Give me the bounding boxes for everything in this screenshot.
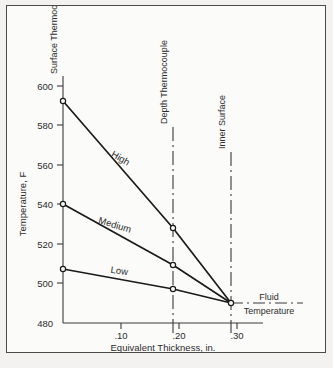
inner-surface-label: Inner Surface — [217, 95, 227, 149]
series-marker-convergence — [228, 300, 233, 305]
series-label-medium: Medium — [97, 214, 133, 234]
series-line-medium — [63, 204, 231, 303]
y-tick-label-600: 600 — [37, 81, 53, 92]
x-axis-ticks — [121, 323, 237, 329]
chart-canvas: 600 580 560 540 520 500 480 .10 .20 .30 … — [7, 6, 325, 352]
depth-thermocouple-label: Depth Thermocouple — [159, 40, 169, 124]
series-line-high — [63, 101, 231, 303]
series-marker-low-1 — [170, 286, 175, 291]
y-tick-label-560: 560 — [37, 160, 53, 171]
series-marker-medium-1 — [170, 262, 175, 267]
figure-frame: 600 580 560 540 520 500 480 .10 .20 .30 … — [6, 5, 326, 353]
y-tick-label-580: 580 — [37, 120, 53, 131]
x-tick-label-030: .30 — [230, 330, 243, 341]
x-tick-label-010: .10 — [114, 330, 127, 341]
series-marker-medium-0 — [60, 201, 65, 206]
y-tick-label-520: 520 — [37, 239, 53, 250]
y-tick-label-500: 500 — [37, 278, 53, 289]
x-axis-title: Equivalent Thickness, in. — [111, 342, 216, 352]
series-marker-low-0 — [60, 266, 65, 271]
y-tick-label-480: 480 — [37, 318, 53, 329]
y-tick-label-540: 540 — [37, 199, 53, 210]
series-marker-high-1 — [170, 225, 175, 230]
series-label-low: Low — [110, 264, 129, 277]
series-label-high: High — [110, 148, 132, 167]
fluid-temperature-label-line2: Temperature — [244, 306, 295, 316]
x-tick-label-020: .20 — [172, 330, 185, 341]
y-axis-title: Temperature, F — [17, 172, 28, 237]
series-marker-high-0 — [60, 98, 65, 103]
figure-page: 600 580 560 540 520 500 480 .10 .20 .30 … — [0, 0, 333, 368]
fluid-temperature-label-line1: Fluid — [259, 292, 279, 302]
y-axis-ticks — [57, 86, 63, 283]
surface-thermocouple-label-line1: Surface Thermocouple — [49, 6, 59, 74]
